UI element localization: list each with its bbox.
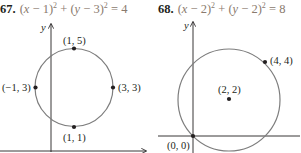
label-4-4: (4, 4) — [270, 55, 293, 67]
point-4-4 — [263, 60, 267, 64]
circle — [35, 49, 113, 127]
point-3-3 — [111, 85, 115, 89]
graph-68: y (4, 4) (2, 2) (0, 0) — [158, 20, 300, 153]
graphs: y (1, 5) (−1, 3) (3, 3) (1, 1) y (4, 4) … — [0, 0, 301, 153]
graph-67: y (1, 5) (−1, 3) (3, 3) (1, 1) — [0, 22, 146, 152]
label-2-2: (2, 2) — [218, 84, 241, 96]
y-axis-label: y — [183, 20, 189, 31]
label-1-1: (1, 1) — [63, 132, 86, 144]
y-axis-label: y — [40, 22, 46, 33]
point-0-0 — [191, 134, 195, 138]
point-2-2 — [227, 97, 231, 101]
label-neg1-3: (−1, 3) — [2, 82, 31, 94]
point-1-1 — [72, 125, 76, 129]
label-0-0: (0, 0) — [167, 140, 190, 152]
point-1-5 — [72, 46, 76, 50]
label-1-5: (1, 5) — [63, 35, 86, 47]
label-3-3: (3, 3) — [118, 82, 141, 94]
point-neg1-3 — [33, 85, 37, 89]
